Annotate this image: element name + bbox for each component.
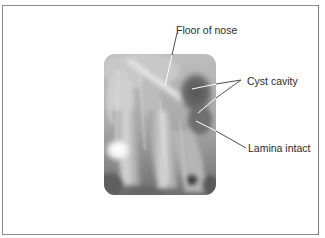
radiograph-figure (0, 0, 325, 238)
label-cyst-cavity: Cyst cavity (247, 75, 298, 87)
label-floor-of-nose: Floor of nose (176, 24, 237, 36)
label-lamina-intact: Lamina intact (248, 142, 310, 154)
xray-image (96, 52, 218, 198)
